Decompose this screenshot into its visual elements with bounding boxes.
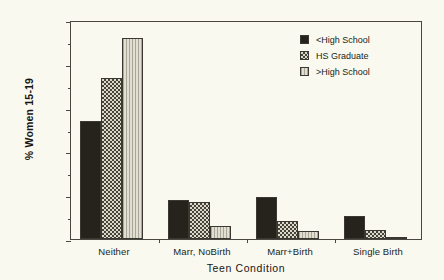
- legend-label: HS Graduate: [316, 51, 369, 61]
- bar: [101, 78, 122, 239]
- legend-swatch: [300, 67, 309, 76]
- legend: <High SchoolHS Graduate>High School: [300, 33, 412, 81]
- x-tick: [159, 239, 160, 243]
- bar: [122, 38, 143, 239]
- bar: [298, 231, 319, 239]
- legend-swatch: [300, 35, 309, 44]
- legend-label: <High School: [316, 35, 370, 45]
- y-tick-major: [66, 110, 71, 111]
- x-axis-title: Teen Condition: [70, 262, 422, 274]
- legend-item: <High School: [300, 33, 412, 46]
- bar: [256, 197, 277, 239]
- bar: [189, 202, 210, 239]
- y-tick-major: [66, 153, 71, 154]
- bar: [80, 121, 101, 239]
- bar: [365, 230, 386, 239]
- legend-item: >High School: [300, 65, 412, 78]
- bar: [277, 221, 298, 239]
- y-tick-major: [66, 197, 71, 198]
- bar: [386, 237, 407, 239]
- legend-item: HS Graduate: [300, 49, 412, 62]
- y-tick-minor: [68, 132, 71, 133]
- y-axis-title: % Women 15-19: [23, 49, 35, 189]
- legend-swatch: [300, 51, 309, 60]
- y-tick-minor: [68, 88, 71, 89]
- bar: [344, 216, 365, 239]
- y-tick-minor: [68, 219, 71, 220]
- x-tick: [335, 239, 336, 243]
- y-tick-major: [66, 22, 71, 23]
- y-tick-major: [66, 241, 71, 242]
- y-tick-major: [66, 66, 71, 67]
- bar: [210, 226, 231, 239]
- y-tick-minor: [68, 44, 71, 45]
- bar: [168, 200, 189, 239]
- bar-chart-figure: % Women 15-19 020406080100 NeitherMarr, …: [0, 0, 444, 280]
- x-tick-label: Single Birth: [323, 246, 433, 257]
- x-tick: [247, 239, 248, 243]
- y-tick-minor: [68, 175, 71, 176]
- legend-label: >High School: [316, 67, 370, 77]
